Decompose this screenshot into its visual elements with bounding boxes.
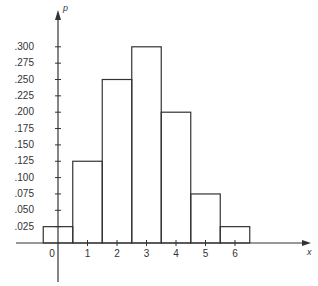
x-tick-label: 2 xyxy=(110,249,124,259)
histogram-bar xyxy=(73,161,103,243)
y-tick-label: .300 xyxy=(0,42,34,52)
x-tick-label: 6 xyxy=(228,249,242,259)
y-tick-label: .025 xyxy=(0,222,34,232)
histogram-bar xyxy=(191,194,221,243)
y-tick-label: .125 xyxy=(0,156,34,166)
y-axis-arrow-icon xyxy=(55,10,61,20)
x-tick-label: 4 xyxy=(169,249,183,259)
y-tick-label: .200 xyxy=(0,107,34,117)
histogram-bar xyxy=(102,80,132,244)
chart-plot-area xyxy=(0,0,318,286)
x-tick-label: 0 xyxy=(45,249,59,259)
y-tick-label: .275 xyxy=(0,58,34,68)
y-tick-label: .225 xyxy=(0,91,34,101)
y-tick-label: .150 xyxy=(0,140,34,150)
x-tick-label: 3 xyxy=(140,249,154,259)
y-tick-label: .250 xyxy=(0,75,34,85)
y-tick-label: .175 xyxy=(0,124,34,134)
y-axis-label: p xyxy=(63,3,68,13)
histogram-bar xyxy=(132,47,162,243)
y-tick-label: .050 xyxy=(0,205,34,215)
y-tick-label: .100 xyxy=(0,173,34,183)
probability-histogram: p x .025.050.075.100.125.150.175.200.225… xyxy=(0,0,318,286)
y-tick-label: .075 xyxy=(0,189,34,199)
histogram-bar xyxy=(161,112,191,243)
x-axis-label: x xyxy=(307,247,312,257)
x-axis-arrow-icon xyxy=(302,240,311,246)
x-tick-label: 5 xyxy=(199,249,213,259)
x-tick-label: 1 xyxy=(81,249,95,259)
